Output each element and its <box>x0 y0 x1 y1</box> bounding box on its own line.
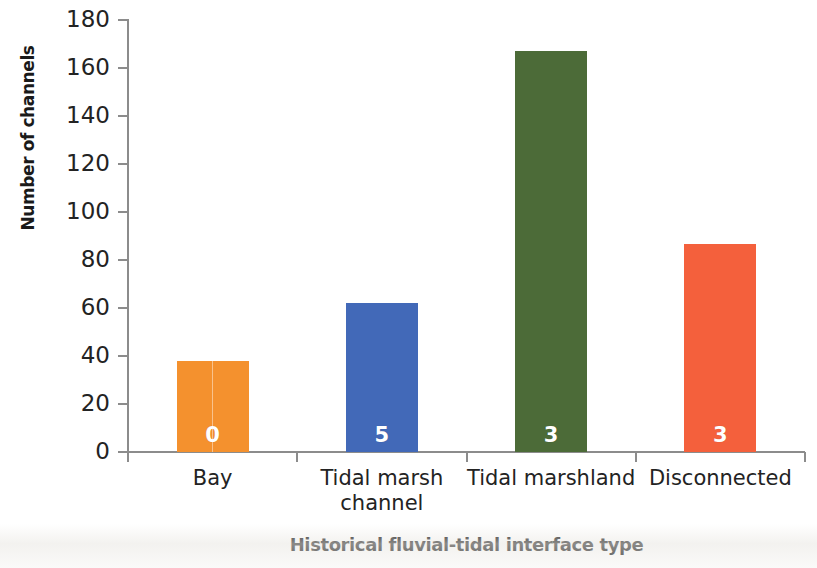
x-tick-label-disconnected: Disconnected <box>636 466 805 491</box>
y-tick-180 <box>118 19 128 21</box>
x-tick-label-bay: Bay <box>128 466 297 491</box>
bar-chart-figure: Number of channels 020406080100120140160… <box>0 0 817 568</box>
y-tick-label-180: 180 <box>34 8 110 31</box>
bar-tidal-marsh-channel[interactable]: 5 <box>346 303 418 452</box>
x-tick-2 <box>466 452 468 462</box>
y-tick-label-0: 0 <box>34 440 110 463</box>
y-tick-label-20: 20 <box>34 392 110 415</box>
bar-value-label: 5 <box>346 425 418 446</box>
x-axis-title: Historical fluvial-tidal interface type <box>128 534 805 555</box>
bar-bay[interactable]: 0 <box>177 361 249 452</box>
x-tick-label-tidal-marsh-channel: Tidal marshchannel <box>297 466 466 516</box>
y-tick-label-120: 120 <box>34 152 110 175</box>
bar-value-label: 0 <box>177 425 249 446</box>
y-tick-20 <box>118 403 128 405</box>
y-tick-label-40: 40 <box>34 344 110 367</box>
y-tick-100 <box>118 211 128 213</box>
x-tick-edge-0 <box>127 452 129 462</box>
x-tick-edge-1 <box>804 452 806 462</box>
x-tick-3 <box>635 452 637 462</box>
x-tick-label-tidal-marshland: Tidal marshland <box>467 466 636 491</box>
x-tick-label-line: Tidal marsh <box>320 466 443 490</box>
y-tick-label-100: 100 <box>34 200 110 223</box>
y-tick-label-60: 60 <box>34 296 110 319</box>
x-tick-label-line: Tidal marshland <box>467 466 635 490</box>
y-tick-160 <box>118 67 128 69</box>
y-tick-80 <box>118 259 128 261</box>
bar-tidal-marshland[interactable]: 3 <box>515 51 587 452</box>
bar-value-label: 3 <box>684 425 756 446</box>
y-tick-60 <box>118 307 128 309</box>
scan-line-artifact <box>212 361 213 452</box>
plot-area: 0533 <box>128 20 805 452</box>
x-tick-1 <box>296 452 298 462</box>
bar-disconnected[interactable]: 3 <box>684 244 756 452</box>
bar-value-label: 3 <box>515 425 587 446</box>
y-tick-label-140: 140 <box>34 104 110 127</box>
y-tick-120 <box>118 163 128 165</box>
y-tick-140 <box>118 115 128 117</box>
y-tick-label-80: 80 <box>34 248 110 271</box>
x-tick-label-line: channel <box>340 491 423 515</box>
y-tick-label-160: 160 <box>34 56 110 79</box>
x-tick-label-line: Disconnected <box>649 466 792 490</box>
y-tick-40 <box>118 355 128 357</box>
x-tick-label-line: Bay <box>193 466 233 490</box>
